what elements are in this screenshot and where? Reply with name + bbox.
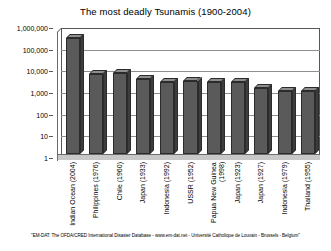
x-axis: Indian Ocean (2004)Philippines (1976)Chi…	[57, 162, 320, 230]
bar-front-face	[278, 91, 292, 154]
y-axis: 1,000,000100,00010,0001,000100101	[0, 0, 57, 251]
y-axis-tick-label: 100,000	[23, 46, 48, 53]
x-axis-tick-label: Thailand (1955)	[304, 162, 312, 211]
y-axis-tick	[49, 93, 53, 94]
x-axis-tick-label: Indonesia (1992)	[163, 162, 171, 215]
bar	[89, 74, 103, 154]
x-axis-tick-label: Japan (1933)	[139, 162, 147, 203]
bar-front-face	[183, 81, 197, 154]
x-axis-tick-label: USSR (1952)	[187, 162, 195, 204]
y-axis-tick	[49, 115, 53, 116]
plot-area	[57, 28, 320, 160]
x-axis-tick-label: Chile (1960)	[116, 162, 124, 200]
bar-side-face	[103, 70, 107, 154]
bar	[278, 91, 292, 154]
x-axis-tick-label: Japan (1923)	[234, 162, 242, 203]
bar	[231, 82, 245, 154]
bar	[136, 79, 150, 154]
bar-front-face	[231, 82, 245, 154]
bar	[160, 82, 174, 154]
bar-side-face	[292, 87, 296, 154]
bar-front-face	[89, 74, 103, 154]
bar-side-face	[315, 87, 319, 154]
bar	[207, 82, 221, 154]
y-axis-tick	[49, 136, 53, 137]
bar-front-face	[113, 73, 127, 154]
bars-layer	[57, 28, 320, 160]
x-axis-tick-label: Indian Ocean (2004)	[69, 162, 85, 226]
plot-depth-edge	[57, 32, 58, 161]
source-note: "EM-DAT: The OFDA/CRED International Dis…	[0, 233, 331, 238]
bar-side-face	[198, 77, 202, 154]
y-axis-tick	[49, 158, 53, 159]
bar-front-face	[254, 88, 268, 154]
bar	[301, 91, 315, 154]
y-axis-tick-label: 1,000,000	[17, 25, 48, 32]
bar-side-face	[150, 75, 154, 154]
bar-front-face	[136, 79, 150, 154]
y-axis-tick	[49, 28, 53, 29]
chart-figure: The most deadly Tsunamis (1900-2004) 1,0…	[0, 0, 331, 251]
bar	[66, 38, 80, 154]
y-axis-tick	[49, 50, 53, 51]
bar	[254, 88, 268, 154]
bar	[113, 73, 127, 154]
y-axis-tick	[49, 71, 53, 72]
bar-front-face	[160, 82, 174, 154]
bar-front-face	[207, 82, 221, 154]
y-axis-tick-label: 1	[44, 155, 48, 162]
y-axis-tick-label: 100	[36, 111, 48, 118]
bar-side-face	[174, 78, 178, 154]
bar-front-face	[301, 91, 315, 154]
y-axis-tick-label: 10,000	[27, 68, 48, 75]
bar-front-face	[66, 38, 80, 154]
x-axis-tick-label: Indonesia (1979)	[281, 162, 289, 215]
y-axis-tick-label: 10	[40, 133, 48, 140]
bar-side-face	[127, 69, 131, 154]
x-axis-tick-label: Japan (1927)	[257, 162, 265, 203]
bar	[183, 81, 197, 154]
bar-side-face	[268, 84, 272, 154]
bar-side-face	[221, 78, 225, 154]
y-axis-tick-label: 1,000	[30, 90, 48, 97]
bar-side-face	[245, 78, 249, 154]
x-axis-tick-label: Philippines (1976)	[92, 162, 100, 218]
x-axis-tick-label: Papua New Guinea (1998)	[210, 162, 226, 228]
bar-side-face	[80, 34, 84, 154]
